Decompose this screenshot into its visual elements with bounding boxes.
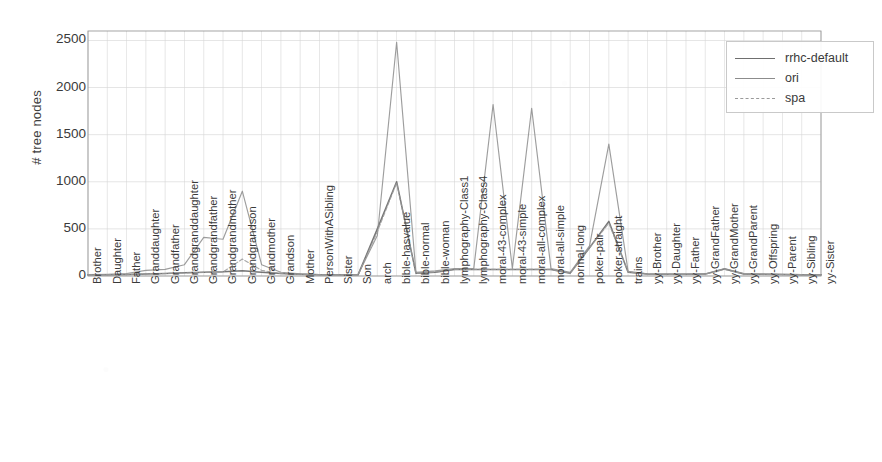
x-tick-label: lymphography-Class1 (459, 176, 470, 284)
x-tick-label: Son (362, 264, 373, 284)
x-tick-label: PersonWithASibling (324, 185, 335, 284)
x-tick-label: Brother (92, 247, 103, 284)
x-tick-label: Grandmother (266, 218, 277, 284)
x-tick-label: Grandgrandson (247, 206, 258, 284)
legend-label: spa (785, 91, 805, 105)
legend-swatch-icon (735, 98, 775, 99)
x-tick-label: moral-all-complex (536, 196, 547, 284)
x-tick-label: Sister (343, 255, 354, 284)
legend-item-rrhc-default[interactable]: rrhc-default (735, 48, 865, 68)
legend-swatch-icon (735, 78, 775, 79)
x-tick-label: lymphography-Class4 (478, 176, 489, 284)
x-tick-label: yy-Daughter (671, 223, 682, 284)
x-tick-label: Grandgrandmother (227, 189, 238, 284)
x-tick-label: yy-GrandMother (729, 203, 740, 284)
chart-legend: rrhc-defaultorispa (726, 41, 874, 113)
x-tick-label: normal-long (575, 225, 586, 284)
x-tick-label: bible-hasvalue (401, 212, 412, 284)
x-tick-label: yy-Parent (787, 236, 798, 284)
x-tick-label: yy-Father (690, 237, 701, 284)
x-tick-label: Grandgrandfather (208, 196, 219, 284)
x-tick-label: Grandgranddaughter (189, 180, 200, 284)
x-tick-label: yy-Offspring (768, 224, 779, 284)
x-tick-label: yy-Brother (652, 232, 663, 284)
x-tick-label: yy-GrandFather (710, 206, 721, 284)
x-tick-label: bible-woman (440, 221, 451, 284)
x-tick-label: bible-normal (420, 222, 431, 284)
x-tick-label: Father (131, 252, 142, 284)
legend-label: ori (785, 71, 799, 85)
x-tick-label: Granddaughter (150, 209, 161, 284)
x-tick-label: trains (633, 257, 644, 284)
x-tick-label: yy-Sibling (806, 236, 817, 285)
x-tick-label: Daughter (112, 238, 123, 284)
x-tick-label: Grandson (285, 235, 296, 284)
legend-item-ori[interactable]: ori (735, 68, 865, 88)
x-tick-label: Mother (305, 249, 316, 284)
legend-item-spa[interactable]: spa (735, 88, 865, 108)
x-tick-label: poker-straight (613, 216, 624, 284)
x-tick-label: Grandfather (170, 224, 181, 284)
legend-swatch-icon (735, 58, 775, 59)
x-tick-label: yy-Sister (825, 240, 836, 284)
legend-label: rrhc-default (785, 51, 848, 65)
x-tick-label: arch (382, 262, 393, 284)
x-tick-label: yy-GrandParent (748, 205, 759, 284)
x-tick-label: moral-all-simple (555, 205, 566, 284)
x-tick-label: poker-pair (594, 234, 605, 284)
x-tick-label: moral-43-complex (497, 194, 508, 284)
chart-container: 05001000150020002500 # tree nodes Brothe… (0, 0, 882, 462)
x-tick-label: moral-43-simple (517, 204, 528, 284)
